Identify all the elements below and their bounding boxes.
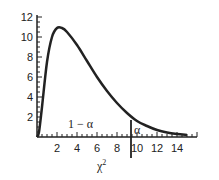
x-axis-title: χ2 — [96, 158, 106, 173]
y-tick-label: 4 — [27, 91, 33, 103]
x-tick-label: 6 — [94, 142, 100, 154]
x-tick-label: 12 — [151, 142, 163, 154]
y-tick-label: 12 — [21, 11, 33, 23]
one-minus-alpha-label: 1 − α — [68, 117, 94, 131]
y-tick-label: 8 — [27, 51, 33, 63]
x-tick-label: 14 — [171, 142, 183, 154]
y-tick-label: 10 — [21, 31, 33, 43]
y-tick-label: 2 — [27, 111, 33, 123]
y-axis-tick-labels: 24681012 — [21, 11, 33, 123]
y-tick-label: 6 — [27, 71, 33, 83]
density-curve — [37, 27, 187, 137]
chi-square-chart: 24681012 2468101214 1 − α α χ2 — [0, 0, 219, 180]
x-tick-label: 8 — [114, 142, 120, 154]
x-tick-label: 10 — [131, 142, 143, 154]
alpha-label: α — [134, 123, 141, 137]
x-tick-label: 4 — [74, 142, 80, 154]
x-axis-tick-labels: 2468101214 — [54, 142, 183, 154]
x-tick-label: 2 — [54, 142, 60, 154]
